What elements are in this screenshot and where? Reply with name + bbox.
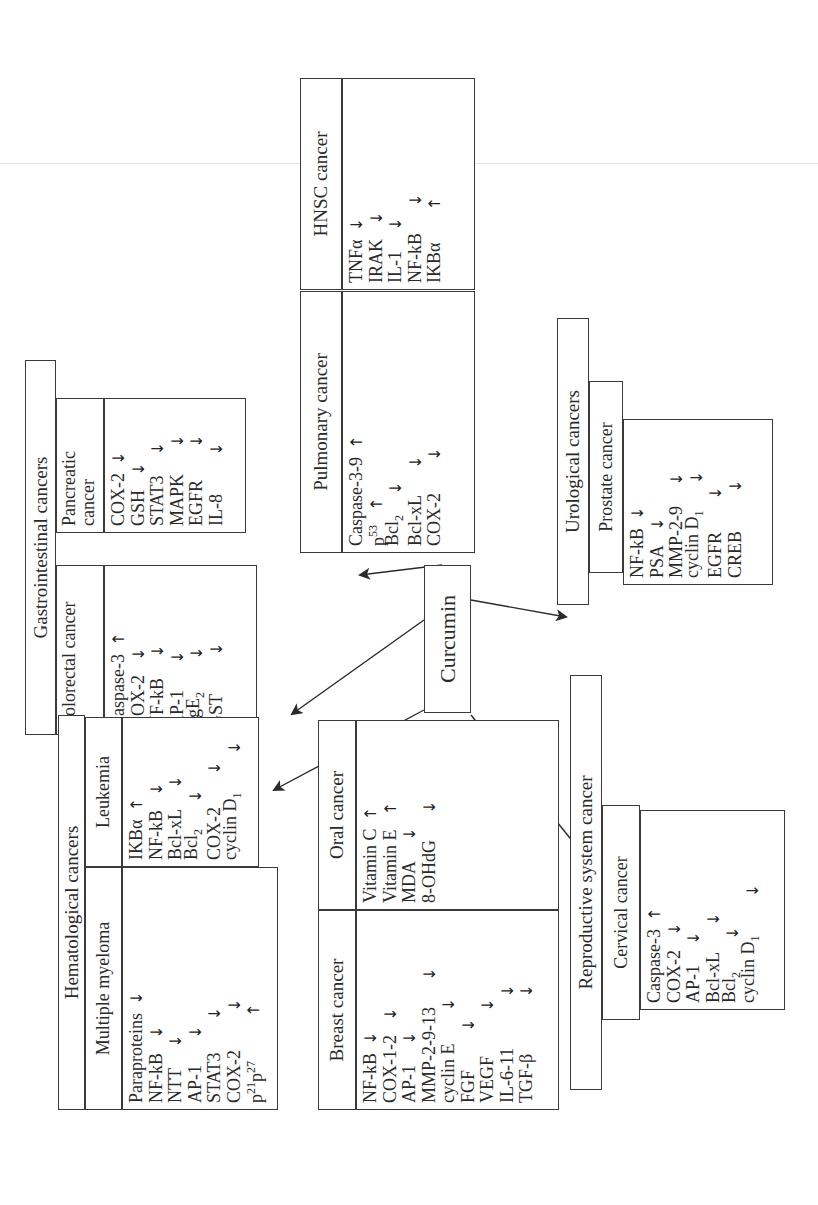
item-label: IL-6-11 (498, 1048, 518, 1103)
list-item: COX-2↓ (129, 572, 149, 728)
arrow-up-icon: ↑ (645, 907, 665, 921)
item-label: MMP-2-9-13 (420, 1007, 440, 1103)
pulmonary-title: Pulmonary cancer (300, 291, 342, 553)
item-label: AP-1 (684, 965, 704, 1003)
hematological-title: Hematological cancers (58, 715, 85, 1110)
arrow-down-icon: ↓ (225, 741, 245, 755)
list-item: Caspase-3↑ (109, 572, 129, 728)
list-item: MAPK↓ (168, 405, 188, 526)
list-item: 8-OHdG↓ (420, 727, 440, 903)
list-item: FGF↓ (459, 917, 479, 1103)
item-list: Caspase-3↑COX-2↓AP-1↓Bcl-xL↓Bcl2↓cyclin … (645, 817, 762, 1003)
arrow-down-icon: ↓ (400, 827, 420, 841)
item-list: Caspase-3-9↑p53↑Bcl2↓Bcl-xL↓COX-2↓ (347, 298, 445, 546)
list-item: NF-kB↓ (148, 572, 168, 728)
item-label: MDA (400, 861, 420, 903)
list-item: IL-1↓ (386, 85, 406, 283)
arrow-down-icon: ↓ (648, 517, 668, 531)
item-label: NF-kB (628, 528, 648, 578)
list-item: cyclin D1↓ (687, 426, 707, 578)
diagram-canvas: Curcumin Gastrointestinal cancers Colore… (0, 0, 818, 1205)
arrow-down-icon: ↓ (166, 775, 186, 789)
arrow-down-icon: ↓ (129, 462, 149, 476)
oral-items: Vitamin C↑Vitamin E↑MDA↓8-OHdG↓ (356, 720, 559, 910)
arrow-down-icon: ↓ (347, 218, 367, 232)
list-item: Bcl-xL↓ (406, 298, 426, 546)
item-label: cyclin D1 (739, 936, 765, 1003)
list-item: EGFR↓ (706, 426, 726, 578)
arrow-up-icon: ↑ (109, 632, 129, 646)
item-label: COX-1-2 (381, 1035, 401, 1103)
list-item: EGFR↓ (187, 405, 207, 526)
list-item: STAT3↓ (148, 405, 168, 526)
list-item: PgE2↓ (187, 572, 207, 728)
group-pulmonary: Pulmonary cancer Caspase-3-9↑p53↑Bcl2↓Bc… (300, 291, 475, 553)
item-label: Paraproteins (127, 1013, 147, 1103)
arrow-up-icon: ↑ (244, 1003, 264, 1017)
list-item: GST↓ (207, 572, 227, 728)
arrow-down-icon: ↓ (743, 884, 763, 898)
item-label: 8-OHdG (420, 840, 440, 903)
item-label: Caspase-3 (645, 929, 665, 1003)
item-label: Vitamin E (381, 830, 401, 903)
pancreatic-header: Pancreatic cancer (56, 398, 104, 533)
arrow-down-icon: ↓ (147, 782, 167, 796)
arrow-to-urological (471, 600, 566, 617)
curcumin-label: Curcumin (435, 595, 461, 683)
arrow-down-icon: ↓ (109, 451, 129, 465)
list-item: IL-6-11↓ (498, 917, 518, 1103)
list-item: Vitamin E↑ (381, 727, 401, 903)
colorectal-items: Caspase-3↑COX-2↓NF-kB↓AP-1↓PgE2↓GST↓ (104, 565, 257, 735)
arrow-down-icon: ↓ (667, 472, 687, 486)
group-gastrointestinal: Gastrointestinal cancers Colorectal canc… (25, 360, 260, 735)
arrow-up-icon: ↑ (425, 197, 445, 211)
item-label: TGF-β (517, 1054, 537, 1103)
arrow-down-icon: ↓ (186, 789, 206, 803)
arrow-to-gastrointestinal (292, 620, 424, 714)
arrow-down-icon: ↓ (187, 434, 207, 448)
arrow-down-icon: ↓ (166, 1034, 186, 1048)
arrow-down-icon: ↓ (127, 991, 147, 1005)
hnsc-title: HNSC cancer (300, 78, 342, 290)
item-label: EGFR (706, 532, 726, 578)
list-item: AP-1↓ (400, 917, 420, 1103)
list-item: AP-1↓ (186, 874, 206, 1103)
item-label: COX-2 (425, 493, 445, 546)
arrow-down-icon: ↓ (207, 442, 227, 456)
item-label: COX-2 (109, 473, 129, 526)
arrow-down-icon: ↓ (129, 647, 149, 661)
item-list: Caspase-3↑COX-2↓NF-kB↓AP-1↓PgE2↓GST↓ (109, 572, 226, 728)
group-hnsc: HNSC cancer TNFα↓IRAK↓IL-1↓NF-kB↓IKBα↑ (300, 78, 475, 290)
group-urological: Urological cancers Prostate cancer NF-kB… (557, 318, 775, 605)
arrow-down-icon: ↓ (498, 984, 518, 998)
arrow-down-icon: ↓ (205, 761, 225, 775)
arrow-down-icon: ↓ (148, 441, 168, 455)
leukemia-items: IKBα↑NF-kB↓Bcl-xL↓Bcl2↓COX-2↓cyclin D1↓ (122, 717, 259, 867)
item-label: NTT (166, 1068, 186, 1103)
arrow-down-icon: ↓ (665, 922, 685, 936)
list-item: NF-kB↓ (361, 917, 381, 1103)
urological-title: Urological cancers (557, 318, 589, 605)
arrow-up-icon: ↑ (127, 798, 147, 812)
list-item: PSA↓ (648, 426, 668, 578)
arrow-down-icon: ↓ (420, 800, 440, 814)
list-item: COX-1-2↓ (381, 917, 401, 1103)
curcumin-node: Curcumin (424, 565, 471, 713)
arrow-down-icon: ↓ (386, 481, 406, 495)
arrow-down-icon: ↓ (726, 479, 746, 493)
cervical-header: Cervical cancer (602, 805, 640, 1020)
arrow-down-icon: ↓ (148, 644, 168, 658)
list-item: Bcl2↓ (186, 724, 206, 860)
list-item: AP-1↓ (684, 817, 704, 1003)
pancreatic-items: COX-2↓GSH↓STAT3↓MAPK↓EGFR↓IL-8↓ (104, 398, 246, 533)
arrow-down-icon: ↓ (225, 998, 245, 1012)
arrow-down-icon: ↓ (400, 1031, 420, 1045)
colorectal-header: Colorectal cancer (56, 565, 104, 735)
item-list: IKBα↑NF-kB↓Bcl-xL↓Bcl2↓COX-2↓cyclin D1↓ (127, 724, 244, 860)
item-label: NF-kB (361, 1053, 381, 1103)
list-item: Caspase-3-9↑ (347, 298, 367, 546)
list-item: Paraproteins↓ (127, 874, 147, 1103)
item-list: NF-kB↓COX-1-2↓AP-1↓MMP-2-9-13↓cyclin E↓F… (361, 917, 537, 1103)
list-item: p53↑ (367, 298, 387, 546)
arrow-down-icon: ↓ (187, 646, 207, 660)
